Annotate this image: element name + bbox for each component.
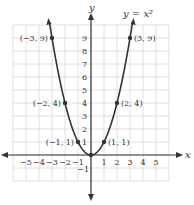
- point-label: (−3, 9): [20, 34, 48, 43]
- svg-text:1: 1: [82, 138, 87, 147]
- function-label: y = x²: [122, 8, 153, 19]
- x-axis-arrow-left-icon: [1, 152, 8, 158]
- y-axis-label: y: [88, 2, 95, 13]
- data-point: [102, 140, 106, 144]
- svg-text:−5: −5: [20, 158, 32, 167]
- svg-text:2: 2: [82, 125, 87, 134]
- svg-text:−2: −2: [59, 158, 71, 167]
- svg-text:8: 8: [82, 47, 87, 56]
- svg-text:6: 6: [82, 73, 87, 82]
- data-point: [50, 36, 54, 40]
- svg-text:−3: −3: [46, 158, 58, 167]
- point-label: (−1, 1): [46, 138, 74, 147]
- svg-text:5: 5: [153, 158, 158, 167]
- data-point: [128, 36, 132, 40]
- point-label: (3, 9): [134, 34, 156, 43]
- point-label: (1, 1): [108, 138, 130, 147]
- svg-text:3: 3: [82, 112, 87, 121]
- parabola-graph: −5−4−3−2−112345−1123456789 (−3, 9)(−2, 4…: [0, 0, 194, 205]
- data-points: (−3, 9)(−2, 4)(−1, 1)(1, 1)(2, 4)(3, 9): [20, 18, 156, 157]
- svg-text:−4: −4: [33, 158, 45, 167]
- data-point: [115, 101, 119, 105]
- svg-text:9: 9: [82, 34, 87, 43]
- svg-text:4: 4: [140, 158, 145, 167]
- svg-text:4: 4: [82, 99, 87, 108]
- curve-arrow-left-icon: [46, 18, 51, 25]
- data-point: [89, 153, 93, 157]
- data-point: [76, 140, 80, 144]
- svg-text:3: 3: [127, 158, 132, 167]
- y-axis-arrow-up-icon: [88, 13, 94, 20]
- svg-text:1: 1: [101, 158, 106, 167]
- svg-text:7: 7: [82, 60, 87, 69]
- x-axis-arrow-right-icon: [176, 152, 183, 158]
- y-axis-arrow-down-icon: [88, 194, 94, 201]
- svg-text:2: 2: [114, 158, 119, 167]
- point-label: (2, 4): [121, 99, 143, 108]
- x-axis-label: x: [185, 149, 191, 160]
- svg-text:−1: −1: [77, 165, 89, 174]
- data-point: [63, 101, 67, 105]
- svg-text:5: 5: [82, 86, 87, 95]
- point-label: (−2, 4): [33, 99, 61, 108]
